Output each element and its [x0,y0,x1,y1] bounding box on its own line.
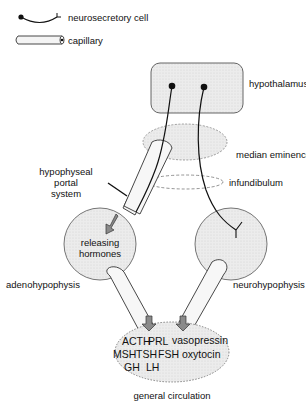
portal-label-line3: system [51,188,81,199]
releasing-label-line1: releasing [81,237,120,248]
hormone-tsh: TSH [136,348,157,360]
median-eminence-label: median eminence [236,149,306,160]
legend-neurosecretory-cell-label: neurosecretory cell [68,12,148,23]
legend: neurosecretory cell capillary [16,12,148,46]
pituitary-diagram: neurosecretory cell capillary hypothalam… [0,0,306,410]
hormone-fsh: FSH [158,348,179,360]
capillary-icon [16,36,64,44]
hormone-prl: PRL [148,335,169,347]
infundibulum [147,175,223,189]
neurohypophysis [195,208,267,280]
hormone-oxytocin: oxytocin [182,348,221,360]
infundibulum-label: infundibulum [229,177,283,188]
portal-pointer [108,183,127,196]
hormone-acth: ACTH [122,335,151,347]
neurosecretory-cell-icon [18,13,61,23]
portal-label-line2: portal [54,177,78,188]
hormone-lh: LH [146,361,159,373]
adenohypophysis-label: adenohypophysis [6,279,80,290]
legend-capillary-label: capillary [68,35,103,46]
hormone-vasopressin: vasopressin [172,334,228,346]
hypothalamus-box [151,63,243,113]
releasing-label-line2: hormones [79,248,121,259]
hormone-msh: MSH [113,348,136,360]
general-circulation-label: general circulation [133,390,210,401]
hormone-gh: GH [124,361,140,373]
hypothalamus-label: hypothalamus [249,78,306,89]
neurohypophysis-label: neurohypophysis [233,279,305,290]
portal-label-line1: hypophyseal [39,166,92,177]
